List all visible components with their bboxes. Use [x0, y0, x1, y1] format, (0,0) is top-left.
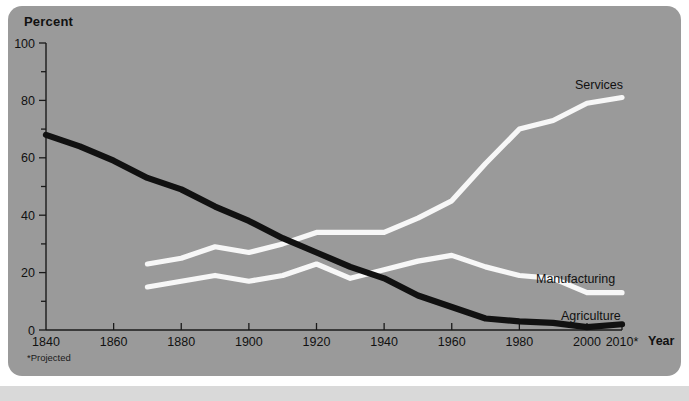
x-tick-label: 1980	[505, 335, 533, 349]
x-tick-label: 1920	[303, 335, 331, 349]
x-tick-label: 1880	[167, 335, 195, 349]
series-group	[46, 98, 622, 328]
series-label-agriculture: Agriculture	[561, 309, 621, 323]
x-tick-label: 2000	[573, 335, 601, 349]
y-tick-label: 40	[21, 209, 35, 223]
series-label-services: Services	[575, 78, 623, 92]
x-tick-label: 2010*	[606, 335, 639, 349]
line-chart-plot: 020406080100 184018601880190019201940196…	[0, 0, 689, 401]
x-tick-label: 1840	[32, 335, 60, 349]
y-tick-label: 60	[21, 151, 35, 165]
x-tick-label: 1900	[235, 335, 263, 349]
y-axis-tick-labels: 020406080100	[14, 37, 35, 338]
y-tick-label: 20	[21, 266, 35, 280]
x-tick-label: 1940	[370, 335, 398, 349]
x-tick-label: 1860	[100, 335, 128, 349]
y-axis-ticks	[39, 43, 46, 330]
series-labels-group: Services Manufacturing Agriculture	[536, 78, 623, 323]
x-tick-label: 1960	[438, 335, 466, 349]
series-label-manufacturing: Manufacturing	[536, 272, 615, 286]
y-tick-label: 100	[14, 37, 35, 51]
x-axis-title: Year	[648, 334, 675, 348]
x-axis-tick-labels: 1840186018801900192019401960198020002010…	[32, 335, 638, 349]
chart-screenshot: Percent *Projected 020406080100 18401860…	[0, 0, 689, 401]
series-line-services	[147, 98, 622, 264]
y-tick-label: 80	[21, 94, 35, 108]
